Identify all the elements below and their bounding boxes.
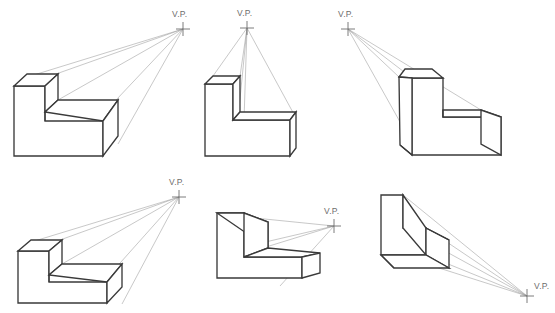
vp-label: V.P. [169,177,184,187]
figure-5-vp-marker: V.P. [324,206,341,233]
vp-label: V.P. [324,206,339,216]
vp-label: V.P. [534,281,549,291]
vp-label: V.P. [172,9,187,19]
solid-step-top-face [233,112,296,120]
figure-6-solid [381,195,449,268]
ray-line [247,28,296,118]
figure-5-group: V.P. [217,206,341,286]
figure-6-vp-marker: V.P. [520,281,549,303]
figure-4-group: V.P. [18,177,186,304]
figure-2-vp-marker: V.P. [237,8,254,35]
solid-right-end-face [302,253,320,278]
drawing-canvas: V.P. V.P. [0,0,555,313]
ray-line [348,29,399,77]
ray-line [348,29,412,78]
figure-6-group: V.P. [381,195,549,303]
solid-left-face [399,77,412,155]
ray-line [28,197,179,243]
solid-right-end-face [290,112,296,156]
solid-top-face-tall [399,69,443,78]
perspective-drawing-sheet: V.P. V.P. [0,0,555,313]
figure-3-solid [399,69,501,155]
vp-label: V.P. [237,8,252,18]
figure-2-solid [205,76,296,156]
figure-1-solid [14,74,118,156]
vp-label: V.P. [338,9,353,19]
ray-line [60,197,179,240]
figure-2-group: V.P. [205,8,296,156]
figure-1-group: V.P. [14,9,190,156]
ray-line [58,29,183,100]
figure-3-group: V.P. [338,9,501,155]
figure-4-solid [18,240,122,303]
ray-line [56,29,183,74]
ray-line [266,226,334,247]
ray-line [213,28,247,76]
